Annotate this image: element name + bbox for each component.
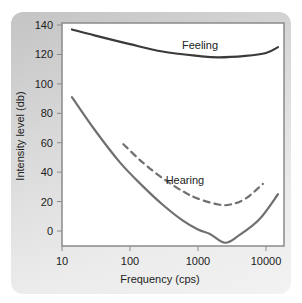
y-tick-label: 0 <box>47 225 53 237</box>
y-tick-label: 20 <box>41 196 53 208</box>
y-tick-label: 140 <box>35 19 53 31</box>
annotation-label: Feeling <box>182 39 218 51</box>
y-tick-label: 40 <box>41 166 53 178</box>
y-tick-label: 60 <box>41 137 53 149</box>
x-tick-label: 10 <box>56 255 68 267</box>
y-tick-label: 120 <box>35 48 53 60</box>
y-tick-label: 100 <box>35 78 53 90</box>
x-axis: 10100100010000 <box>56 246 281 267</box>
x-tick-label: 1000 <box>186 255 210 267</box>
y-tick-label: 80 <box>41 107 53 119</box>
x-tick-label: 10000 <box>251 255 282 267</box>
x-tick-label: 100 <box>121 255 139 267</box>
y-axis-label: Intensity level (db) <box>14 91 26 180</box>
chart: 140120100806040200 10100100010000 Feelin… <box>0 0 302 303</box>
y-axis: 140120100806040200 <box>35 19 62 237</box>
x-axis-label: Frequency (cps) <box>120 273 199 285</box>
annotation-label: Hearing <box>166 174 205 186</box>
